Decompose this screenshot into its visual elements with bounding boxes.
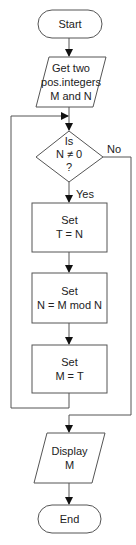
end-label: End bbox=[38, 512, 101, 526]
output-line-1: Display bbox=[34, 444, 105, 458]
start-label: Start bbox=[38, 17, 102, 31]
output-line-2: M bbox=[34, 458, 105, 472]
set-t-line-2: T = N bbox=[32, 227, 107, 241]
no-edge-label: No bbox=[107, 143, 121, 155]
input-line-3: M and N bbox=[36, 89, 106, 103]
set-m-line-1: Set bbox=[32, 355, 107, 369]
decision-line-2: N ≠ 0 bbox=[44, 148, 94, 161]
set-m-line-2: M = T bbox=[32, 369, 107, 383]
yes-edge-label: Yes bbox=[76, 188, 94, 200]
set-n-line-1: Set bbox=[32, 284, 107, 298]
input-label: Get two pos.integers M and N bbox=[36, 61, 106, 103]
set-t-line-1: Set bbox=[32, 213, 107, 227]
set-n-line-2: N = M mod N bbox=[32, 298, 107, 312]
decision-line-3: ? bbox=[44, 161, 94, 174]
decision-label: Is N ≠ 0 ? bbox=[44, 135, 94, 174]
input-line-2: pos.integers bbox=[36, 75, 106, 89]
decision-line-1: Is bbox=[44, 135, 94, 148]
set-m-label: Set M = T bbox=[32, 355, 107, 383]
input-line-1: Get two bbox=[36, 61, 106, 75]
set-t-label: Set T = N bbox=[32, 213, 107, 241]
set-n-label: Set N = M mod N bbox=[32, 284, 107, 312]
output-label: Display M bbox=[34, 444, 105, 472]
